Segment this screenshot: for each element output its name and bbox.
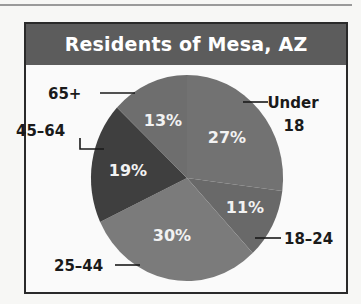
label-25-44: 25–44 [54,257,103,275]
label-45-64: 45–64 [16,122,65,140]
label-under-18-line2: 18 [284,117,305,135]
pct-under-18: 27% [208,128,246,147]
pie-chart: 27% 11% 30% 19% 13% Under 18 18–24 25–44… [0,0,361,304]
pct-25-44: 30% [153,226,191,245]
label-under-18-line1: Under [267,94,319,112]
label-18-24: 18–24 [284,230,333,248]
pct-18-24: 11% [226,198,264,217]
pct-65-plus: 13% [144,111,182,130]
pct-45-64: 19% [109,161,147,180]
label-65-plus: 65+ [48,85,81,103]
